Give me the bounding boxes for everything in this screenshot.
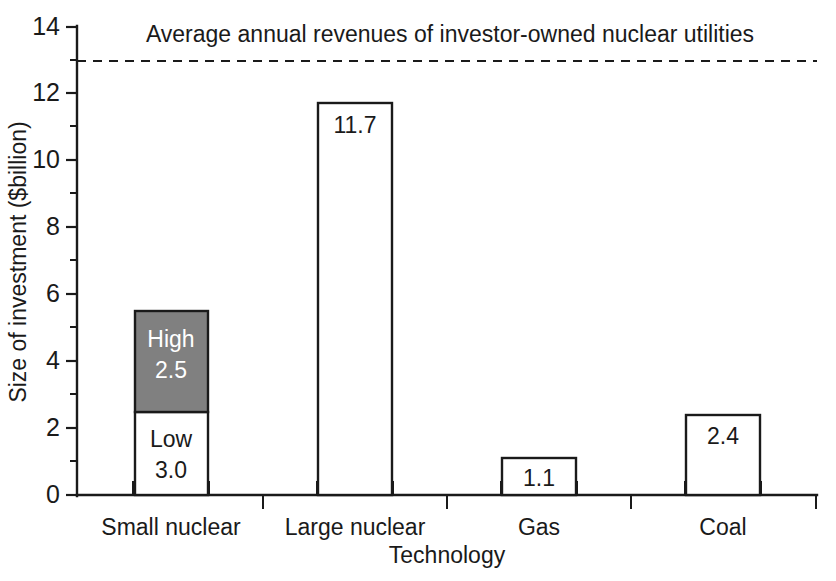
x-tick-label-large-nuclear: Large nuclear — [285, 514, 426, 540]
y-tick-label-10: 10 — [32, 145, 60, 173]
bar-label-gas: 1.1 — [523, 465, 555, 491]
y-tick-label-0: 0 — [46, 480, 60, 508]
y-tick-label-2: 2 — [46, 413, 60, 441]
x-tick-label-coal: Coal — [699, 514, 746, 540]
bar-chart: 14 12 10 8 6 4 2 0 Size of investment ($… — [0, 0, 836, 581]
bar-label-large-nuclear: 11.7 — [333, 112, 376, 138]
bar-label-small-nuclear-low-name: Low — [150, 426, 193, 452]
bar-group-small-nuclear[interactable]: High 2.5 Low 3.0 — [135, 311, 208, 495]
x-axis-title: Technology — [389, 542, 506, 568]
bar-group-gas[interactable]: 1.1 — [502, 458, 576, 495]
x-tick-label-small-nuclear: Small nuclear — [101, 514, 241, 540]
bar-group-large-nuclear[interactable]: 11.7 — [318, 103, 392, 495]
y-tick-label-4: 4 — [46, 346, 60, 374]
threshold-label: Average annual revenues of investor-owne… — [146, 21, 754, 47]
y-tick-label-6: 6 — [46, 279, 60, 307]
x-tick-label-gas: Gas — [518, 514, 560, 540]
y-tick-label-12: 12 — [32, 78, 60, 106]
y-tick-label-14: 14 — [32, 12, 60, 40]
bar-label-small-nuclear-high-value: 2.5 — [155, 357, 187, 383]
y-axis: 14 12 10 8 6 4 2 0 Size of investment ($… — [5, 12, 77, 508]
bar-large-nuclear[interactable] — [318, 103, 392, 495]
chart-container: 14 12 10 8 6 4 2 0 Size of investment ($… — [0, 0, 836, 581]
y-tick-label-8: 8 — [46, 212, 60, 240]
bar-label-small-nuclear-low-value: 3.0 — [155, 457, 187, 483]
bar-label-coal: 2.4 — [707, 423, 739, 449]
threshold-group: Average annual revenues of investor-owne… — [77, 21, 817, 61]
bar-group-coal[interactable]: 2.4 — [686, 415, 760, 495]
bar-label-small-nuclear-high-name: High — [147, 326, 194, 352]
y-axis-title: Size of investment ($billion) — [5, 121, 31, 402]
